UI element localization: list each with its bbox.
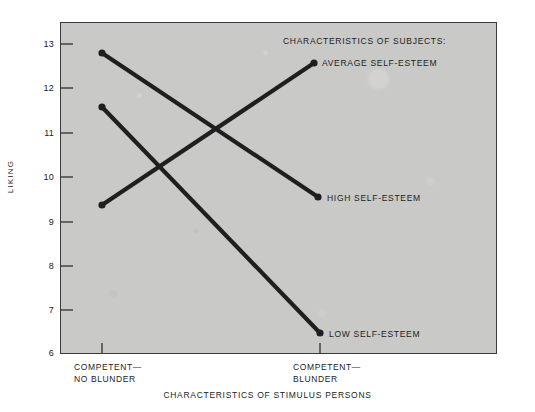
- chart-figure: 13 12 11 10 9 8 7 6 LIKING: [0, 0, 535, 412]
- data-point-high-left: [98, 49, 105, 56]
- series-label-average-self-esteem: AVERAGE SELF-ESTEEM: [322, 58, 437, 68]
- x-tick-1-line1: COMPETENT—: [293, 362, 361, 372]
- series-label-high-self-esteem: HIGH SELF-ESTEEM: [327, 193, 421, 203]
- data-point-low-left: [98, 103, 105, 110]
- x-tick-label-competent-blunder: COMPETENT—BLUNDER: [293, 362, 361, 385]
- data-point-average-left: [98, 201, 105, 208]
- series-line-high-self-esteem: [98, 49, 321, 200]
- x-tick-1-line2: BLUNDER: [293, 374, 338, 384]
- series-label-low-self-esteem: LOW SELF-ESTEEM: [329, 329, 420, 339]
- series-line-low-self-esteem: [98, 103, 323, 336]
- x-axis-title: CHARACTERISTICS OF STIMULUS PERSONS: [0, 390, 535, 400]
- series-line-average-self-esteem: [98, 59, 317, 208]
- x-tick-0-line2: NO BLUNDER: [74, 374, 136, 384]
- legend-title: CHARACTERISTICS OF SUBJECTS:: [283, 36, 446, 46]
- data-point-low-right: [316, 329, 323, 336]
- y-axis-tick-marks: [60, 44, 73, 310]
- x-tick-label-competent-no-blunder: COMPETENT—NO BLUNDER: [74, 362, 142, 385]
- plot-vector-layer: [0, 0, 535, 412]
- data-point-high-right: [314, 193, 321, 200]
- data-point-average-right: [310, 59, 317, 66]
- x-axis-tick-marks: [102, 343, 320, 354]
- x-tick-0-line1: COMPETENT—: [74, 362, 142, 372]
